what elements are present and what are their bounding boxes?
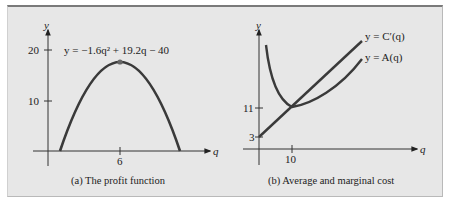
panel-b-ytick-11: 11 <box>243 102 254 114</box>
figure-canvas: y q 20 10 6 y = −1.6q² + 19.2q − 40 (a) … <box>0 0 449 205</box>
maximum-point <box>117 59 122 64</box>
panel-a-profit-function: y q 20 10 6 y = −1.6q² + 19.2q − 40 (a) … <box>28 19 219 187</box>
panel-b-caption: (b) Average and marginal cost <box>268 175 394 187</box>
panel-a-caption: (a) The profit function <box>71 175 166 187</box>
average-cost-label: y = A(q) <box>365 51 403 64</box>
panel-a-x-label: q <box>213 145 219 157</box>
marginal-cost-line <box>259 41 362 137</box>
panel-a-xtick-6: 6 <box>117 155 123 167</box>
panel-b-y-label: y <box>255 19 261 31</box>
panel-a-ytick-10: 10 <box>28 95 40 107</box>
panel-a-ytick-20: 20 <box>28 44 40 56</box>
panel-b-ytick-3: 3 <box>249 131 255 143</box>
profit-curve <box>60 62 180 151</box>
marginal-cost-label: y = C′(q) <box>365 30 405 43</box>
panel-b-x-label: q <box>420 143 426 155</box>
panel-a-y-label: y <box>43 19 49 31</box>
profit-equation: y = −1.6q² + 19.2q − 40 <box>64 44 170 56</box>
panel-b-xtick-10: 10 <box>285 153 297 165</box>
panel-b-average-marginal-cost: y q 11 3 10 y = C′(q) y = A(q) (b) Avera… <box>243 19 426 187</box>
